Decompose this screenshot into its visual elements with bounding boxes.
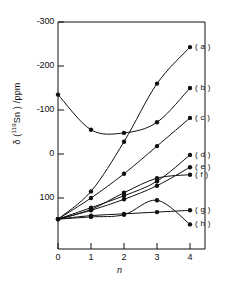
data-point xyxy=(155,183,159,187)
data-point xyxy=(155,81,159,85)
y-tick-marks xyxy=(58,22,64,198)
x-tick-marks xyxy=(58,243,190,249)
data-point xyxy=(56,92,60,96)
x-tick-label: 4 xyxy=(183,252,197,262)
y-tick-label: -300 xyxy=(20,16,54,26)
data-point xyxy=(188,45,192,49)
x-axis-label: n xyxy=(0,265,239,275)
data-point xyxy=(188,208,192,212)
legend-label-a: ( a ) xyxy=(195,42,211,51)
series-layer xyxy=(56,45,192,227)
x-tick-label: 2 xyxy=(117,252,131,262)
data-point xyxy=(155,176,159,180)
data-point xyxy=(122,191,126,195)
data-point xyxy=(89,215,93,219)
data-point xyxy=(155,210,159,214)
data-point xyxy=(188,153,192,157)
y-tick-label: 0 xyxy=(20,148,54,158)
x-tick-label: 3 xyxy=(150,252,164,262)
data-point xyxy=(155,144,159,148)
legend-label-f: ( f ) xyxy=(195,170,209,179)
data-point xyxy=(122,172,126,176)
data-point xyxy=(89,189,93,193)
data-point xyxy=(188,116,192,120)
data-point xyxy=(188,86,192,90)
data-point xyxy=(56,217,60,221)
x-tick-label: 1 xyxy=(84,252,98,262)
data-point xyxy=(188,172,192,176)
series-b xyxy=(56,86,192,135)
legend-label-h: ( h ) xyxy=(195,219,211,228)
y-tick-label: -200 xyxy=(20,60,54,70)
data-point xyxy=(89,207,93,211)
data-point xyxy=(122,213,126,217)
series-line xyxy=(58,88,190,134)
x-tick-label: 0 xyxy=(51,252,65,262)
legend-label-d: ( d ) xyxy=(195,150,211,159)
legend-label-b: ( b ) xyxy=(195,83,211,92)
data-point xyxy=(188,165,192,169)
legend-label-g: ( g ) xyxy=(195,205,211,214)
y-tick-label: -100 xyxy=(20,104,54,114)
data-point xyxy=(155,120,159,124)
data-point xyxy=(89,128,93,132)
data-point xyxy=(122,139,126,143)
y-tick-label: 100 xyxy=(20,192,54,202)
legend-label-c: ( c ) xyxy=(195,113,210,122)
series-line xyxy=(58,155,190,219)
data-point xyxy=(155,198,159,202)
data-point xyxy=(122,131,126,135)
chart-figure: δ (119Sn ) /ppm n -300-200-1000100 01234… xyxy=(0,0,239,286)
data-point xyxy=(188,222,192,226)
data-point xyxy=(89,196,93,200)
data-point xyxy=(122,197,126,201)
axis-frame xyxy=(58,22,205,249)
